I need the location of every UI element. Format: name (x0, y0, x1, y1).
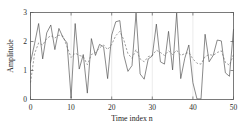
series-line-noisy-signal (31, 13, 234, 99)
figure-container: 01020304050 0123 Time index n Amplitude (0, 0, 250, 126)
x-tick-label: 40 (189, 103, 197, 112)
x-axis-tick-labels: 01020304050 (29, 103, 238, 112)
y-axis-ticks (31, 13, 234, 100)
x-axis-title: Time index n (111, 114, 152, 123)
data-series-group (31, 13, 234, 99)
y-axis-tick-labels: 0123 (23, 8, 27, 104)
x-tick-label: 50 (230, 103, 238, 112)
x-tick-label: 30 (149, 103, 157, 112)
series-line-smoothed-signal (31, 31, 234, 82)
x-tick-label: 0 (29, 103, 33, 112)
x-tick-label: 20 (108, 103, 116, 112)
gridlines-group (71, 13, 193, 100)
y-tick-label: 3 (23, 8, 27, 17)
x-tick-label: 10 (67, 103, 75, 112)
y-axis-title: Amplitude (6, 39, 15, 73)
x-axis-ticks (31, 13, 234, 100)
y-tick-label: 2 (23, 37, 27, 46)
axis-frame (31, 13, 234, 100)
chart-canvas: 01020304050 0123 Time index n Amplitude (0, 0, 250, 126)
y-tick-label: 0 (23, 95, 27, 104)
y-tick-label: 1 (23, 66, 27, 75)
